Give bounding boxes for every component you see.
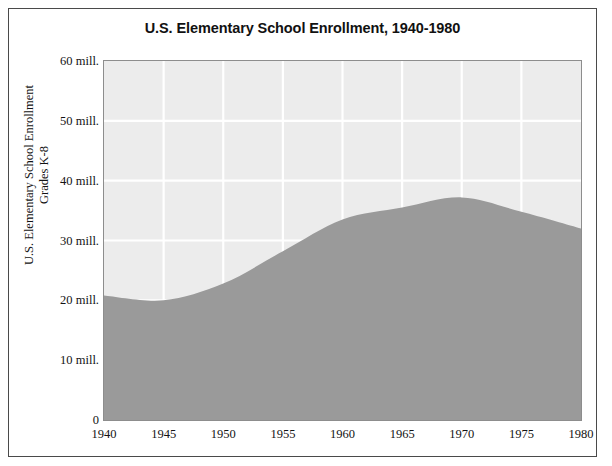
y-tick-label: 40 mill. — [37, 175, 99, 187]
x-tick-label: 1965 — [372, 427, 432, 442]
x-tick-label: 1975 — [491, 427, 551, 442]
y-tick-label: 0 — [37, 414, 99, 426]
x-tick-label: 1980 — [551, 427, 611, 442]
x-tick-label: 1955 — [253, 427, 313, 442]
x-axis-ticks: 194019451950195519601965197019751980 — [0, 427, 612, 447]
area-chart-svg — [104, 61, 581, 420]
y-tick-label: 10 mill. — [37, 354, 99, 366]
x-tick-label: 1950 — [193, 427, 253, 442]
x-tick-label: 1945 — [134, 427, 194, 442]
y-tick-label: 50 mill. — [37, 115, 99, 127]
x-tick-label: 1960 — [313, 427, 373, 442]
y-tick-label: 60 mill. — [37, 55, 99, 67]
enrollment-area-series — [104, 197, 581, 420]
y-tick-label: 20 mill. — [37, 294, 99, 306]
chart-figure: U.S. Elementary School Enrollment, 1940-… — [0, 0, 612, 466]
y-axis-ticks: 010 mill.20 mill.30 mill.40 mill.50 mill… — [33, 0, 99, 466]
y-tick-label: 30 mill. — [37, 235, 99, 247]
x-tick-label: 1970 — [432, 427, 492, 442]
plot-area — [103, 60, 582, 421]
x-tick-label: 1940 — [74, 427, 134, 442]
